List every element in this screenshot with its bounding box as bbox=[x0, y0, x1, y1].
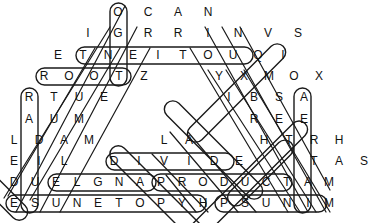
letter-cell: L bbox=[69, 174, 85, 190]
letter-cell: A bbox=[331, 153, 347, 169]
letter-cell: C bbox=[258, 174, 274, 190]
letter-cell: N bbox=[279, 195, 295, 211]
letter-cell: U bbox=[71, 89, 87, 105]
letter-cell: I bbox=[181, 153, 197, 169]
letter-cell: O bbox=[132, 195, 148, 211]
letter-cell: O bbox=[86, 68, 102, 84]
letter-cell: E bbox=[50, 47, 66, 63]
letter-cell: I bbox=[275, 47, 291, 63]
letter-cell: Y bbox=[174, 195, 190, 211]
letter-cell: L bbox=[56, 153, 72, 169]
letter-cell: D bbox=[216, 174, 232, 190]
letter-cell: D bbox=[6, 174, 22, 190]
letter-cell: O bbox=[200, 47, 216, 63]
letter-cell: N bbox=[111, 174, 127, 190]
letter-cell: A bbox=[300, 174, 316, 190]
letter-cell: U bbox=[225, 47, 241, 63]
letter-cell: O bbox=[195, 174, 211, 190]
letter-cell: T bbox=[175, 47, 191, 63]
letter-cell: X bbox=[311, 68, 327, 84]
letter-cell: U bbox=[27, 174, 43, 190]
letter-cell: N bbox=[230, 25, 246, 41]
letter-cell: M bbox=[321, 195, 337, 211]
letter-cell: M bbox=[81, 132, 97, 148]
letter-cell: G bbox=[90, 174, 106, 190]
letter-cell: V bbox=[156, 153, 172, 169]
letter-cell: C bbox=[140, 4, 156, 20]
letter-cell: M bbox=[71, 111, 87, 127]
letter-cell: H bbox=[331, 132, 347, 148]
letter-cell: E bbox=[125, 47, 141, 63]
letter-cell: E bbox=[296, 111, 312, 127]
letter-cell: Z bbox=[136, 68, 152, 84]
letter-cell: L bbox=[156, 132, 172, 148]
letter-cell: I bbox=[131, 153, 147, 169]
letter-cell: R bbox=[36, 68, 52, 84]
letter-cell: A bbox=[296, 89, 312, 105]
letter-cell: I bbox=[221, 89, 237, 105]
letter-cell: R bbox=[174, 174, 190, 190]
letter-cell: V bbox=[260, 25, 276, 41]
letter-cell: P bbox=[216, 195, 232, 211]
letter-cell: A bbox=[56, 132, 72, 148]
letter-cell: T bbox=[111, 195, 127, 211]
letter-cell: U bbox=[48, 195, 64, 211]
letter-cell: I bbox=[31, 153, 47, 169]
letter-cell: M bbox=[321, 174, 337, 190]
letter-cell: I bbox=[150, 47, 166, 63]
letter-cell: P bbox=[153, 195, 169, 211]
letter-cell: L bbox=[6, 132, 22, 148]
letter-cell: A bbox=[170, 4, 186, 20]
letter-cell: M bbox=[261, 68, 277, 84]
letter-cell: T bbox=[46, 89, 62, 105]
letter-cell: D bbox=[206, 153, 222, 169]
letter-cell: U bbox=[258, 195, 274, 211]
letter-cell: S bbox=[356, 153, 372, 169]
letter-cell: Y bbox=[211, 68, 227, 84]
letter-cell: O bbox=[286, 68, 302, 84]
letter-cell: I bbox=[300, 195, 316, 211]
letter-cell: T bbox=[75, 47, 91, 63]
letter-cell: G bbox=[110, 25, 126, 41]
letter-cell: S bbox=[237, 195, 253, 211]
letter-cell: A bbox=[21, 111, 37, 127]
letter-cell: I bbox=[200, 25, 216, 41]
letter-cell: E bbox=[271, 111, 287, 127]
letter-cell: T bbox=[111, 68, 127, 84]
letter-cell: E bbox=[6, 153, 22, 169]
letter-cell: O bbox=[110, 4, 126, 20]
letter-cell: X bbox=[236, 68, 252, 84]
letter-cell: P bbox=[153, 174, 169, 190]
letter-cell: A bbox=[181, 132, 197, 148]
letter-cell: T bbox=[306, 153, 322, 169]
letter-cell: R bbox=[170, 25, 186, 41]
letter-cell: R bbox=[140, 25, 156, 41]
letter-cell: B bbox=[246, 89, 262, 105]
letter-cell: R bbox=[246, 111, 262, 127]
letter-cell: S bbox=[271, 89, 287, 105]
letter-cell: T bbox=[281, 132, 297, 148]
letter-cell: H bbox=[195, 195, 211, 211]
letter-cell: E bbox=[96, 89, 112, 105]
letter-cell: T bbox=[279, 174, 295, 190]
letter-cell: S bbox=[27, 195, 43, 211]
letter-cell: H bbox=[256, 132, 272, 148]
letter-cell: E bbox=[231, 153, 247, 169]
letter-cell: D bbox=[31, 132, 47, 148]
letter-cell: N bbox=[100, 47, 116, 63]
letter-cell: S bbox=[290, 25, 306, 41]
letter-cell: N bbox=[200, 4, 216, 20]
letter-cell: E bbox=[6, 195, 22, 211]
letter-cell: E bbox=[48, 174, 64, 190]
letter-cell: R bbox=[21, 89, 37, 105]
letter-cell: U bbox=[237, 174, 253, 190]
letter-cell: A bbox=[132, 174, 148, 190]
letter-cell: N bbox=[69, 195, 85, 211]
letter-cell: D bbox=[106, 153, 122, 169]
letter-cell: Q bbox=[250, 47, 266, 63]
letter-cell: O bbox=[61, 68, 77, 84]
letter-cell: E bbox=[90, 195, 106, 211]
letter-cell: R bbox=[306, 132, 322, 148]
letter-cell: U bbox=[46, 111, 62, 127]
